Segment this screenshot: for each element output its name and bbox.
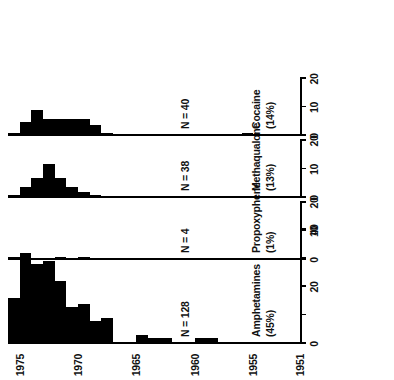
year-tick-label: 1965 <box>130 354 142 376</box>
value-axis-line <box>300 141 302 198</box>
histogram-bar <box>90 195 102 198</box>
panel-caption: Amphetamines(45%) <box>249 264 277 337</box>
value-axis-tick-label: 0 <box>308 195 320 201</box>
histogram-bar <box>55 119 67 136</box>
value-axis-tick-label: 20 <box>308 73 320 84</box>
histogram-bar <box>8 195 20 198</box>
value-axis-tick-label: 20 <box>308 281 320 292</box>
histogram-bar <box>90 125 102 136</box>
histogram-bar <box>136 335 148 344</box>
value-axis-tick <box>300 285 306 287</box>
histogram-bar <box>55 281 67 344</box>
histogram-bar <box>101 133 113 136</box>
panel-drug-name: Amphetamines <box>249 264 263 337</box>
histogram-bar <box>8 298 20 344</box>
value-axis-tick <box>300 196 306 198</box>
histogram-bar <box>160 338 172 344</box>
histogram-bar <box>43 164 55 198</box>
histogram-bar <box>242 133 254 136</box>
histogram-bar <box>148 338 160 344</box>
histogram-bar <box>31 264 43 344</box>
value-axis-tick-label: 0 <box>308 341 320 347</box>
histogram-bar <box>78 304 90 344</box>
histogram-bar <box>43 261 55 344</box>
histogram-bar <box>90 321 102 344</box>
histogram-bar <box>55 257 67 260</box>
value-axis-tick-label: 0 <box>308 257 320 263</box>
year-tick-label: 1970 <box>72 354 84 376</box>
value-axis-line <box>300 79 302 136</box>
histogram-bar <box>20 122 32 136</box>
histogram-bar <box>78 119 90 136</box>
panel-amphetamines: 02040Amphetamines(45%)N = 128 <box>0 272 394 344</box>
histogram-bar <box>20 253 32 344</box>
value-axis-tick <box>300 342 306 344</box>
panel-percent-label: (14%) <box>263 90 277 129</box>
value-axis-tick <box>300 106 306 108</box>
year-tick-label: 1960 <box>189 354 201 376</box>
histogram-bar <box>43 119 55 136</box>
histogram-bar <box>66 119 78 136</box>
value-axis-tick <box>300 77 306 79</box>
histogram-bar <box>207 338 219 344</box>
histogram-bar <box>8 257 20 260</box>
year-axis: 195119551960196519701975 <box>0 348 394 380</box>
value-axis-line <box>300 203 302 260</box>
value-axis-tick <box>300 258 306 260</box>
year-tick-label: 1951 <box>294 354 306 376</box>
panel-propoxyphene: 01020Propoxyphene(1%)N = 4 <box>0 210 394 260</box>
value-axis-tick <box>300 139 306 141</box>
value-axis-tick-label: 0 <box>308 133 320 139</box>
histogram-bar <box>195 338 207 344</box>
histogram-bar <box>66 307 78 344</box>
value-axis-tick-label: 10 <box>308 226 320 237</box>
histogram-bar <box>8 133 20 136</box>
histogram-bar <box>20 257 32 260</box>
histogram-bar <box>55 178 67 198</box>
figure-rotation-wrapper: 195119551960196519701975 02040Amphetamin… <box>0 51 394 380</box>
panel-n-label: N = 40 <box>179 99 191 129</box>
value-axis-tick <box>300 134 306 136</box>
histogram-bar <box>31 178 43 198</box>
year-tick-label: 1955 <box>247 354 259 376</box>
value-axis-tick-label: 10 <box>308 164 320 175</box>
panel-methaqualone: 01020Methaqualone(13%)N = 38 <box>0 148 394 198</box>
histogram-bar <box>78 192 90 198</box>
panel-n-label: N = 128 <box>179 301 191 337</box>
value-axis-tick <box>300 230 306 232</box>
value-axis-tick <box>300 201 306 203</box>
year-tick-label: 1975 <box>14 354 26 376</box>
histogram-bar <box>101 318 113 344</box>
histogram-bar <box>20 187 32 198</box>
panel-n-label: N = 4 <box>179 229 191 253</box>
histogram-bar <box>66 187 78 198</box>
value-axis-tick <box>300 168 306 170</box>
histogram-figure: 195119551960196519701975 02040Amphetamin… <box>0 51 394 380</box>
panel-percent-label: (45%) <box>263 264 277 337</box>
value-axis-tick <box>300 314 306 316</box>
histogram-bar <box>31 110 43 136</box>
value-axis-tick-label: 10 <box>308 102 320 113</box>
panel-cocaine: 01020Cocaine(14%)N = 40 <box>0 86 394 136</box>
panel-caption: Cocaine(14%) <box>249 90 277 129</box>
panel-n-label: N = 38 <box>179 161 191 191</box>
zero-baseline <box>8 258 300 260</box>
histogram-bar <box>78 257 90 260</box>
panel-drug-name: Cocaine <box>249 90 263 129</box>
